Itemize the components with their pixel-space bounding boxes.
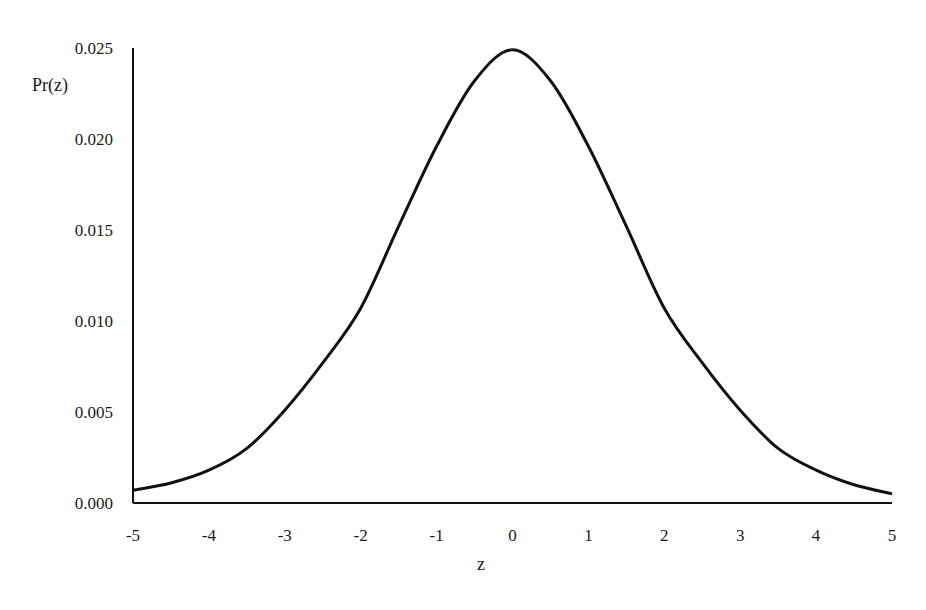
x-tick-label: -4 [202,526,217,545]
x-tick-label: -3 [278,526,292,545]
x-tick-label: -5 [126,526,140,545]
chart: 0.0000.0050.0100.0150.0200.025 -5-4-3-2-… [0,0,926,610]
x-tick-label: 0 [508,526,517,545]
y-axis-title: Pr(z) [32,75,68,96]
y-tick-label: 0.010 [75,312,113,331]
x-tick-label: 4 [812,526,821,545]
x-axis-tick-labels: -5-4-3-2-1012345 [126,526,896,545]
x-tick-label: 1 [584,526,593,545]
y-tick-label: 0.005 [75,403,113,422]
y-tick-label: 0.000 [75,494,113,513]
x-axis-title: z [477,554,485,574]
x-tick-label: 2 [660,526,669,545]
probability-curve [133,50,892,494]
x-tick-label: -2 [354,526,368,545]
y-axis-tick-labels: 0.0000.0050.0100.0150.0200.025 [75,39,113,513]
x-tick-label: -1 [430,526,444,545]
x-tick-label: 5 [888,526,897,545]
y-tick-label: 0.025 [75,39,113,58]
x-tick-label: 3 [736,526,745,545]
y-tick-label: 0.015 [75,221,113,240]
y-tick-label: 0.020 [75,130,113,149]
